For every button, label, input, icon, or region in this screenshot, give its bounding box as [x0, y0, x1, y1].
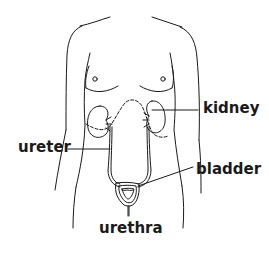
bladder-leader-line: [138, 167, 193, 186]
dashed-outline: [86, 100, 168, 137]
left-nipple: [93, 77, 97, 81]
bladder-label: bladder: [196, 162, 261, 177]
right-nipple: [161, 77, 165, 81]
urinary-system-diagram: [0, 0, 269, 253]
ureter-label: ureter: [18, 140, 71, 155]
torso-outline: [55, 17, 201, 228]
kidney-label: kidney: [203, 101, 259, 116]
urethra-label: urethra: [99, 221, 163, 236]
ureters: [108, 126, 151, 187]
bladder: [115, 182, 139, 206]
left-kidney: [88, 106, 113, 137]
